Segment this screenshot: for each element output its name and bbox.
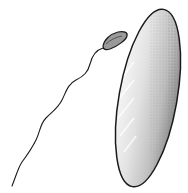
flagellar-hook bbox=[103, 32, 127, 50]
cell-body bbox=[104, 0, 188, 193]
bacterium-illustration bbox=[0, 0, 188, 193]
flagellum bbox=[12, 48, 103, 186]
